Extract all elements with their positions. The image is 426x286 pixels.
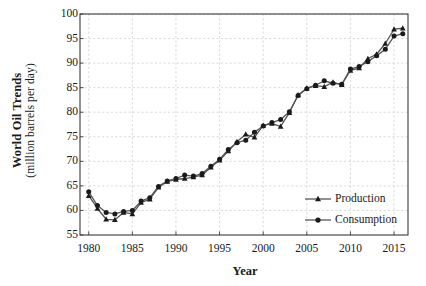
plot-area: [0, 0, 426, 286]
legend-label-consumption: Consumption: [335, 214, 397, 226]
chart-figure: World Oil Trends (million barrels per da…: [0, 0, 426, 286]
legend-label-production: Production: [335, 193, 385, 205]
chart-legend: [305, 196, 331, 223]
